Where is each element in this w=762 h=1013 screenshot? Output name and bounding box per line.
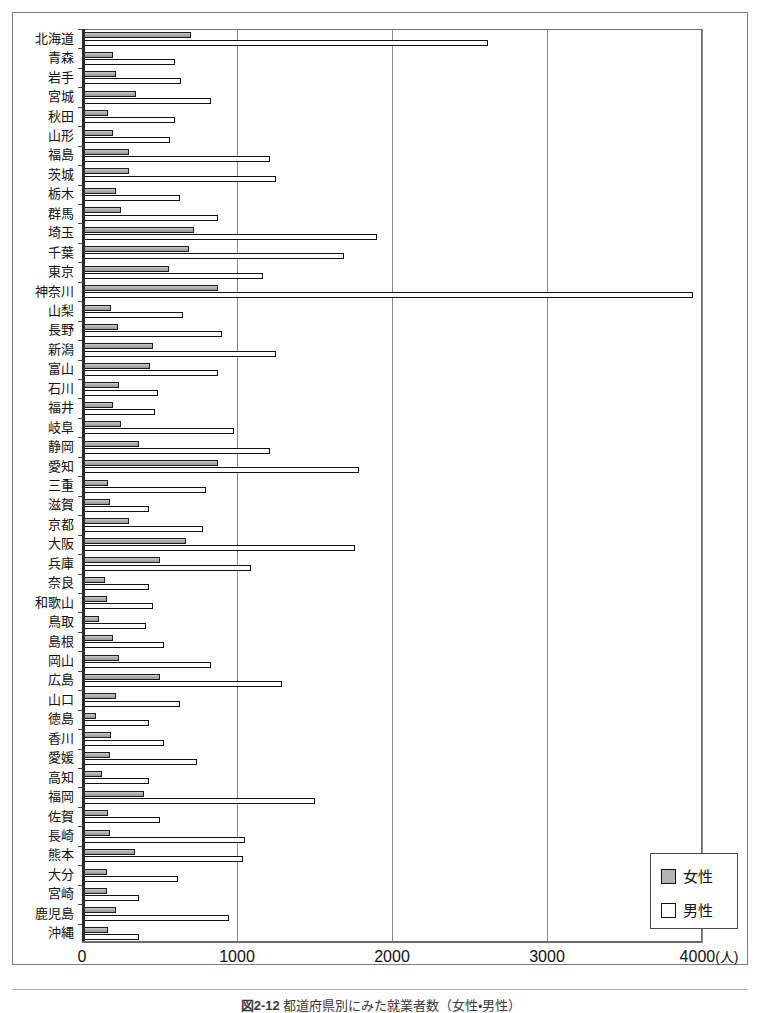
category-label-33: 岡山 — [48, 654, 74, 667]
bar-row — [82, 301, 702, 320]
bar-row — [82, 68, 702, 87]
bar-female — [82, 732, 111, 738]
figure-number: 図2-12 — [241, 998, 280, 1013]
bar-male — [82, 603, 153, 609]
bar-female — [82, 480, 108, 486]
bar-female — [82, 674, 160, 680]
bar-row — [82, 768, 702, 787]
category-label-47: 沖縄 — [48, 926, 74, 939]
bar-male — [82, 817, 160, 823]
female-swatch-icon — [661, 869, 676, 884]
bar-row — [82, 87, 702, 106]
bar-row — [82, 846, 702, 865]
category-label-5: 秋田 — [48, 110, 74, 123]
category-label-43: 熊本 — [48, 848, 74, 861]
bar-female — [82, 635, 113, 641]
bar-female — [82, 402, 113, 408]
bar-male — [82, 662, 211, 668]
category-label-31: 鳥取 — [48, 615, 74, 628]
figure-caption: 図2-12 都道府県別にみた就業者数（女性・男性） — [0, 998, 762, 1013]
bar-row — [82, 165, 702, 184]
value-tick-number: 4000 — [680, 948, 716, 965]
category-label-37: 香川 — [48, 732, 74, 745]
bar-male — [82, 215, 218, 221]
value-tick-label-1000: 1000 — [219, 948, 255, 966]
bar-female — [82, 363, 150, 369]
bar-male — [82, 176, 276, 182]
bar-male — [82, 759, 197, 765]
category-label-19: 石川 — [48, 382, 74, 395]
category-label-30: 和歌山 — [35, 596, 74, 609]
bar-male — [82, 428, 234, 434]
bar-row — [82, 379, 702, 398]
bar-row — [82, 496, 702, 515]
category-label-34: 広島 — [48, 673, 74, 686]
bar-row — [82, 262, 702, 281]
bar-male — [82, 117, 175, 123]
bar-row — [82, 651, 702, 670]
bar-row — [82, 612, 702, 631]
male-swatch-icon — [661, 903, 676, 918]
legend-item-female: 女性 — [661, 863, 737, 889]
bar-male — [82, 487, 206, 493]
category-label-13: 東京 — [48, 265, 74, 278]
category-label-21: 岐阜 — [48, 421, 74, 434]
bar-male — [82, 390, 158, 396]
category-label-4: 宮城 — [48, 90, 74, 103]
legend-box: 女性 男性 — [650, 853, 738, 929]
bar-male — [82, 137, 170, 143]
bar-row — [82, 204, 702, 223]
bar-female — [82, 460, 218, 466]
bar-male — [82, 876, 178, 882]
bar-row — [82, 807, 702, 826]
bar-female — [82, 693, 116, 699]
bar-row — [82, 865, 702, 884]
category-label-24: 三重 — [48, 479, 74, 492]
category-label-45: 宮崎 — [48, 887, 74, 900]
bar-row — [82, 729, 702, 748]
bar-female — [82, 32, 191, 38]
bar-female — [82, 810, 108, 816]
bar-female — [82, 557, 160, 563]
bar-male — [82, 934, 139, 940]
bar-row — [82, 29, 702, 48]
bar-male — [82, 351, 276, 357]
bar-row — [82, 885, 702, 904]
bar-male — [82, 98, 211, 104]
category-label-29: 奈良 — [48, 576, 74, 589]
value-axis-unit: (人) — [715, 949, 738, 965]
value-tick-label-2000: 2000 — [374, 948, 410, 966]
category-label-28: 兵庫 — [48, 557, 74, 570]
bar-male — [82, 778, 149, 784]
bar-male — [82, 253, 344, 259]
value-tick-label-0: 0 — [78, 948, 87, 966]
gridline-4000 — [702, 29, 703, 943]
bar-male — [82, 506, 149, 512]
bar-female — [82, 888, 107, 894]
bar-row — [82, 787, 702, 806]
category-label-41: 佐賀 — [48, 810, 74, 823]
bar-female — [82, 324, 118, 330]
figure-page: 北海道青森岩手宮城秋田山形福島茨城栃木群馬埼玉千葉東京神奈川山梨長野新潟富山石川… — [0, 0, 762, 1013]
bar-female — [82, 421, 121, 427]
bar-male — [82, 740, 164, 746]
bar-male — [82, 915, 229, 921]
bar-row — [82, 457, 702, 476]
category-axis-labels: 北海道青森岩手宮城秋田山形福島茨城栃木群馬埼玉千葉東京神奈川山梨長野新潟富山石川… — [0, 29, 78, 943]
bar-female — [82, 907, 116, 913]
bar-female — [82, 382, 119, 388]
bar-female — [82, 343, 153, 349]
bar-male — [82, 895, 139, 901]
bar-male — [82, 370, 218, 376]
bar-row — [82, 340, 702, 359]
bar-male — [82, 312, 183, 318]
bar-male — [82, 642, 164, 648]
bar-row — [82, 632, 702, 651]
bar-male — [82, 467, 359, 473]
bar-male — [82, 526, 203, 532]
category-label-9: 栃木 — [48, 187, 74, 200]
bar-male — [82, 720, 149, 726]
bar-female — [82, 849, 135, 855]
category-label-44: 大分 — [48, 868, 74, 881]
bar-row — [82, 437, 702, 456]
